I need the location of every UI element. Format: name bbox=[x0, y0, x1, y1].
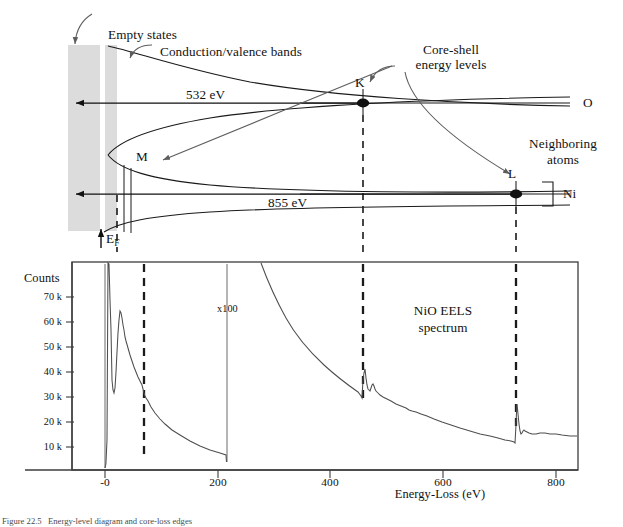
y-tick-label-50k: 50 k bbox=[20, 341, 62, 352]
y-tick-label-70k: 70 k bbox=[20, 291, 62, 302]
valence-band-curve-lower bbox=[108, 155, 570, 192]
label-k-shell: K bbox=[355, 76, 365, 90]
plot-subtitle-spectrum: spectrum bbox=[388, 321, 498, 335]
k-shell-electron-dot bbox=[357, 99, 369, 108]
label-empty-states: Empty states bbox=[108, 28, 177, 42]
label-transition-855ev: 855 eV bbox=[268, 196, 307, 210]
label-conduction-valence-bands: Conduction/valence bands bbox=[160, 45, 302, 59]
fermi-symbol: E bbox=[106, 231, 114, 246]
label-core-shell-line2: energy levels bbox=[392, 58, 510, 72]
plot-title-nio-eels: NiO EELS bbox=[388, 304, 498, 318]
label-transition-532ev: 532 eV bbox=[186, 88, 225, 102]
label-m-shell: M bbox=[136, 150, 148, 164]
eels-spectrum-plot bbox=[25, 262, 578, 478]
label-core-shell: Core-shell bbox=[392, 43, 510, 57]
y-tick-label-60k: 60 k bbox=[20, 316, 62, 327]
x-axis-title: Energy-Loss (eV) bbox=[340, 488, 540, 501]
label-element-nickel: Ni bbox=[563, 187, 576, 201]
band-curve-lowest bbox=[104, 205, 570, 232]
l-shell-electron-dot bbox=[510, 190, 522, 199]
label-neighboring-atoms: atoms bbox=[508, 153, 618, 167]
figure-canvas bbox=[0, 0, 623, 527]
y-tick-label-40k: 40 k bbox=[20, 366, 62, 377]
annotation-x100: x100 bbox=[217, 303, 238, 314]
arrow-empty-states bbox=[75, 14, 92, 44]
arrow-conduction-valence bbox=[130, 45, 152, 58]
y-ticks bbox=[66, 297, 74, 447]
y-tick-label-20k: 20 k bbox=[20, 416, 62, 427]
core-loss-curve bbox=[261, 263, 577, 443]
empty-states-band-wide bbox=[68, 45, 100, 231]
y-axis-title: Counts bbox=[24, 272, 60, 285]
band-curves bbox=[104, 46, 570, 232]
low-loss-inset-borders bbox=[105, 264, 227, 468]
label-fermi-level: EF bbox=[106, 232, 120, 248]
x-tick-label-0: -0 bbox=[85, 476, 125, 488]
x-tick-label-200: 200 bbox=[198, 476, 238, 488]
figure-caption: Figure 22.5 Energy-level diagram and cor… bbox=[2, 516, 192, 526]
x-tick-label-400: 400 bbox=[310, 476, 350, 488]
fermi-subscript: F bbox=[114, 238, 119, 248]
empty-states-band-narrow bbox=[105, 45, 117, 231]
spectrum-guide-lines bbox=[144, 264, 516, 455]
label-neighboring: Neighboring bbox=[508, 137, 618, 151]
y-tick-label-10k: 10 k bbox=[20, 441, 62, 452]
low-loss-curve bbox=[105, 263, 227, 468]
figure-root: Empty states Conduction/valence bands Co… bbox=[0, 0, 623, 527]
x-tick-label-800: 800 bbox=[536, 476, 576, 488]
dashed-guides bbox=[117, 115, 516, 252]
label-l-shell: L bbox=[508, 167, 516, 181]
level-connectors bbox=[363, 89, 516, 207]
valence-band-curve-upper bbox=[108, 97, 570, 155]
y-tick-label-30k: 30 k bbox=[20, 391, 62, 402]
x-tick-label-600: 600 bbox=[423, 476, 463, 488]
arrow-core-shell-to-l bbox=[405, 72, 510, 174]
label-element-oxygen: O bbox=[583, 96, 593, 110]
